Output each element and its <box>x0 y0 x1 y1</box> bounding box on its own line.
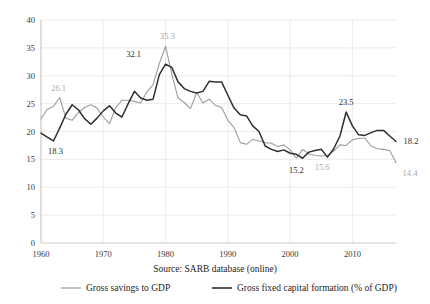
y-tick-label: 5 <box>31 210 35 220</box>
y-tick-label: 10 <box>27 182 36 192</box>
legend-label: Gross savings to GDP <box>86 283 170 293</box>
data-label: 15.2 <box>289 165 304 175</box>
gridlines <box>41 20 396 243</box>
chart-legend: Gross savings to GDPGross fixed capital … <box>61 283 397 294</box>
x-tick-label: 1990 <box>219 249 236 259</box>
line-chart: 0510152025303540 19601970198019902000201… <box>0 0 430 304</box>
y-tick-label: 40 <box>27 15 36 25</box>
x-tick-label: 2000 <box>282 249 299 259</box>
legend-label: Gross fixed capital formation (% of GDP) <box>237 283 397 294</box>
source-caption: Source: SARB database (online) <box>153 264 277 275</box>
chart-figure: 0510152025303540 19601970198019902000201… <box>0 0 430 304</box>
y-tick-label: 20 <box>27 127 36 137</box>
x-tick-label: 1970 <box>95 249 112 259</box>
x-axis-tick-labels: 196019701980199020002010 <box>33 249 361 259</box>
y-tick-label: 0 <box>31 238 35 248</box>
data-label: 32.1 <box>126 49 141 59</box>
y-axis-tick-labels: 0510152025303540 <box>27 15 36 248</box>
data-label: 35.3 <box>160 31 175 41</box>
data-label: 18.2 <box>404 136 419 146</box>
y-tick-label: 15 <box>27 154 36 164</box>
series-line-gross-fixed-capital-formation-of-gdp <box>41 64 396 158</box>
x-tick-label: 1980 <box>157 249 174 259</box>
data-label: 14.4 <box>403 168 419 178</box>
x-tick-label: 2010 <box>344 249 361 259</box>
data-label: 26.1 <box>51 83 66 93</box>
y-tick-label: 35 <box>27 43 36 53</box>
data-label: 18.3 <box>48 146 63 156</box>
data-label: 15.6 <box>315 162 330 172</box>
x-tick-label: 1960 <box>33 249 50 259</box>
y-tick-label: 25 <box>27 99 36 109</box>
y-tick-label: 30 <box>27 71 36 81</box>
data-label: 23.5 <box>339 97 354 107</box>
